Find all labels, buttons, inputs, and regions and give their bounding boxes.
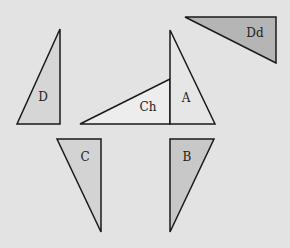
triangle-d-label: D bbox=[38, 90, 48, 104]
triangle-diagram: D Ch A Dd C B bbox=[0, 0, 290, 248]
triangle-ch-label: Ch bbox=[140, 100, 157, 114]
triangle-c-label: C bbox=[80, 150, 89, 164]
triangle-b-label: B bbox=[183, 150, 192, 164]
triangle-a-label: A bbox=[181, 91, 191, 105]
triangle-dd-label: Dd bbox=[246, 26, 264, 40]
